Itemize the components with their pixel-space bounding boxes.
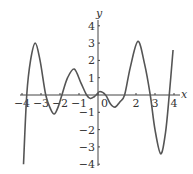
svg-text:2: 2 — [88, 54, 95, 67]
svg-text:−4: −4 — [14, 97, 30, 110]
svg-text:4: 4 — [171, 97, 178, 110]
y-axis-label: y — [95, 7, 103, 20]
svg-text:−4: −4 — [79, 158, 95, 171]
svg-text:3: 3 — [88, 37, 95, 50]
svg-text:−3: −3 — [79, 141, 95, 154]
svg-text:−1: −1 — [79, 106, 95, 119]
svg-text:2: 2 — [133, 97, 140, 110]
svg-text:1: 1 — [88, 72, 95, 85]
chart: −4−3−2−102344321−1−2−3−4 x y — [0, 0, 193, 174]
svg-text:−2: −2 — [79, 124, 95, 137]
svg-text:0: 0 — [101, 97, 108, 110]
svg-text:4: 4 — [88, 20, 95, 33]
x-axis-label: x — [181, 88, 188, 101]
